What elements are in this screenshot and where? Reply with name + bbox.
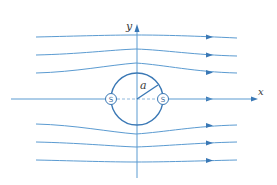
stagnation-label-right: S bbox=[161, 96, 166, 104]
x-axis-arrow-icon bbox=[251, 97, 258, 102]
y-axis-label: y bbox=[125, 20, 133, 33]
arrow-icon bbox=[206, 53, 213, 58]
stagnation-label-left: S bbox=[109, 96, 114, 104]
y-axis-arrow-icon bbox=[135, 24, 140, 32]
arrow-icon bbox=[206, 70, 213, 75]
arrow-icon bbox=[206, 141, 213, 146]
x-axis-label: x bbox=[258, 86, 264, 97]
stagnation-point-right: S bbox=[158, 94, 169, 105]
arrow-icon bbox=[206, 158, 213, 163]
stagnation-point-left: S bbox=[106, 94, 117, 105]
flow-diagram: S S y x a bbox=[0, 0, 277, 185]
radius-label: a bbox=[140, 79, 147, 92]
arrow-icon bbox=[206, 35, 213, 40]
arrow-icon bbox=[206, 123, 213, 128]
